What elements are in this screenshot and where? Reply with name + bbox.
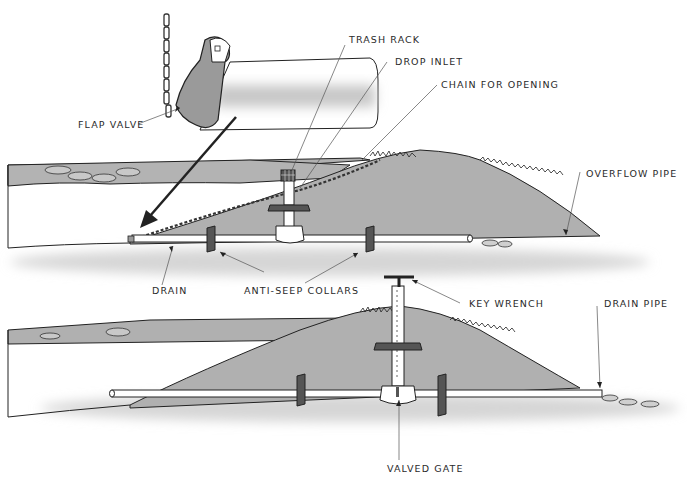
anti-seep-collar (297, 374, 305, 406)
label-key-wrench: KEY WRENCH (469, 299, 544, 309)
label-overflow-pipe: OVERFLOW PIPE (586, 169, 677, 179)
anti-seep-collar (207, 226, 215, 252)
label-drop-inlet: DROP INLET (395, 57, 463, 67)
label-drain: DRAIN (152, 286, 187, 296)
bottom-system (8, 277, 680, 422)
top-system (8, 150, 650, 276)
anti-seep-collar (438, 374, 446, 416)
drain-pipe (110, 390, 603, 397)
label-valved-gate: VALVED GATE (387, 464, 464, 474)
label-flap-valve: FLAP VALVE (78, 120, 144, 130)
label-trash-rack: TRASH RACK (349, 35, 420, 45)
pond-drain-diagram (0, 0, 687, 486)
label-drain-pipe: DRAIN PIPE (604, 299, 668, 309)
label-anti-seep-collars: ANTI-SEEP COLLARS (244, 286, 359, 296)
anti-seep-collar (366, 226, 374, 252)
label-chain-for-opening: CHAIN FOR OPENING (441, 80, 559, 90)
key-wrench (384, 277, 414, 287)
